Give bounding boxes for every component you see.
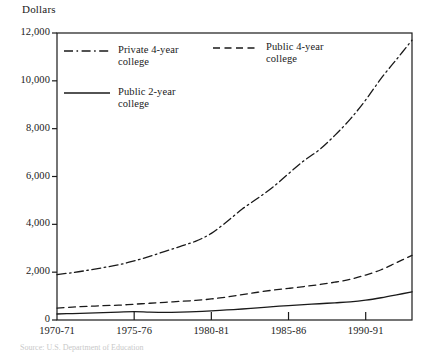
data-series-group bbox=[57, 40, 412, 314]
y-tick-label: 6,000 bbox=[0, 170, 50, 181]
x-axis-ticks bbox=[134, 312, 366, 320]
legend-entry-label-line2: college bbox=[266, 53, 324, 65]
y-tick-label: 12,000 bbox=[0, 26, 50, 37]
plot-area bbox=[0, 0, 424, 353]
legend-entry-1: Private 4-yearcollege bbox=[118, 44, 179, 67]
legend-entry-label-line1: Private 4-year bbox=[118, 44, 179, 56]
x-tick-label: 1980-81 bbox=[176, 325, 246, 336]
y-tick-label: 0 bbox=[0, 313, 50, 324]
y-tick-label: 10,000 bbox=[0, 74, 50, 85]
legend-entry-label-line1: Public 2-year bbox=[118, 86, 176, 98]
legend-entry-label-line2: college bbox=[118, 56, 179, 68]
source-note: Source: U.S. Department of Education bbox=[20, 343, 270, 352]
series-line-3 bbox=[57, 292, 412, 314]
y-tick-label: 8,000 bbox=[0, 122, 50, 133]
series-line-1 bbox=[57, 40, 412, 274]
legend-entry-label-line2: college bbox=[118, 98, 176, 110]
chart-container: Dollars 02,0004,0006,0008,00010,00012,00… bbox=[0, 0, 424, 353]
legend-entry-3: Public 2-yearcollege bbox=[118, 86, 176, 109]
y-axis-ticks bbox=[52, 33, 57, 320]
series-line-2 bbox=[57, 255, 412, 308]
y-tick-label: 2,000 bbox=[0, 265, 50, 276]
y-tick-label: 4,000 bbox=[0, 217, 50, 228]
x-tick-label: 1975-76 bbox=[99, 325, 169, 336]
x-tick-label: 1985-86 bbox=[254, 325, 324, 336]
legend-entry-2: Public 4-yearcollege bbox=[266, 41, 324, 64]
legend-entry-label-line1: Public 4-year bbox=[266, 41, 324, 53]
x-tick-label: 1970-71 bbox=[22, 325, 92, 336]
x-tick-label: 1990-91 bbox=[331, 325, 401, 336]
